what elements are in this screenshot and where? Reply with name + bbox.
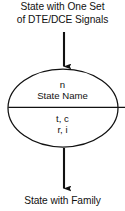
state-name-label: State Name <box>0 90 125 101</box>
state-index-label: n <box>0 79 125 90</box>
state-diagram-figure: State with One Set of DTE/DCE Signals n … <box>0 0 125 211</box>
bottom-caption: State with Family <box>0 195 125 208</box>
signal-label-line-1: t, c <box>0 113 125 124</box>
signal-label-line-2: r, i <box>0 124 125 135</box>
diagram-graphics <box>0 0 125 211</box>
